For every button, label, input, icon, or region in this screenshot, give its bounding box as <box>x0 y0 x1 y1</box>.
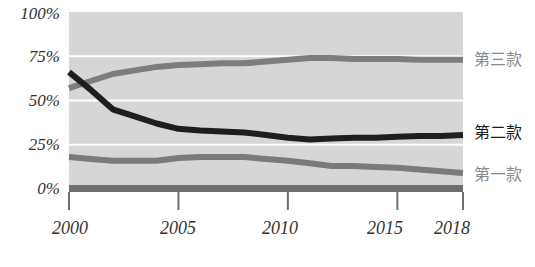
x-tick-2015: 2015 <box>367 218 403 238</box>
x-axis-ticks <box>69 192 463 210</box>
x-tick-2018: 2018 <box>434 218 470 238</box>
legend-series-3: 第三款 <box>474 50 522 69</box>
y-tick-0: 0% <box>37 179 60 198</box>
legend-series-2: 第二款 <box>474 123 522 142</box>
x-tick-2000: 2000 <box>52 218 88 238</box>
line-chart: 100% 75% 50% 25% 0% 2000 2005 2010 2015 … <box>0 0 535 267</box>
x-tick-2010: 2010 <box>262 218 298 238</box>
y-tick-100: 100% <box>20 4 60 23</box>
x-tick-2005: 2005 <box>160 218 196 238</box>
legend-series-1: 第一款 <box>474 165 522 184</box>
baseline-bar <box>69 185 463 192</box>
y-tick-75: 75% <box>29 47 60 66</box>
y-tick-50: 50% <box>29 91 60 110</box>
y-tick-25: 25% <box>29 135 60 154</box>
